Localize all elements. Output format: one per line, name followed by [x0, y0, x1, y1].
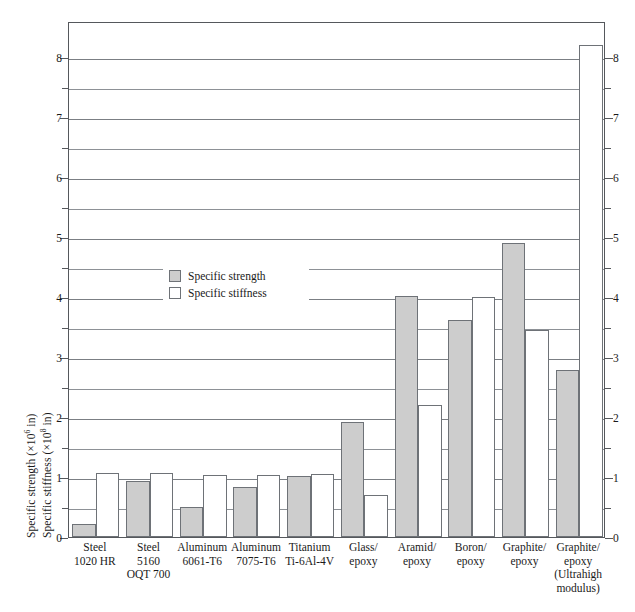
y-tick-right: [605, 178, 613, 179]
x-axis-label-line: epoxy: [498, 555, 552, 569]
bar-group: [338, 23, 392, 537]
x-axis-label: TitaniumTi-6Al-4V: [283, 541, 337, 568]
bar-strength: [341, 422, 365, 537]
bar-group: [69, 23, 123, 537]
x-axis-label-line: 5160: [122, 555, 176, 569]
y-axis-titles: Specific strength (×106 in) Specific sti…: [24, 22, 60, 538]
x-axis-label-line: Steel: [122, 541, 176, 555]
legend-label: Specific stiffness: [188, 287, 267, 299]
y-tick-label-right: 3: [613, 352, 635, 364]
x-axis-label-line: Ti-6Al-4V: [283, 555, 337, 569]
x-axis-label-line: modulus): [551, 582, 605, 596]
x-axis-label: Graphite/epoxy(Ultrahighmodulus): [551, 541, 605, 595]
bar-stiffness: [418, 405, 442, 537]
x-axis-label-line: OQT 700: [122, 568, 176, 582]
legend-swatch-stiffness: [169, 287, 181, 299]
legend-label: Specific strength: [188, 270, 266, 282]
bar-group: [499, 23, 553, 537]
x-axis-label-line: Steel: [68, 541, 122, 555]
x-axis-label: Aramid/epoxy: [390, 541, 444, 568]
x-axis-label-line: Aluminum: [229, 541, 283, 555]
y-tick-label-left: 2: [34, 412, 62, 424]
x-axis-label-line: Graphite/: [551, 541, 605, 555]
bar-stiffness: [150, 473, 174, 537]
bar-strength: [287, 476, 311, 537]
bar-strength: [556, 370, 580, 537]
x-axis-label: Glass/epoxy: [337, 541, 391, 568]
y-tick-label-right: 6: [613, 172, 635, 184]
x-axis-label: Graphite/epoxy: [498, 541, 552, 568]
y-tick-right: [605, 298, 613, 299]
y-tick-right: [605, 118, 613, 119]
bar-stiffness: [203, 475, 227, 537]
chart-legend: Specific strengthSpecific stiffness: [163, 265, 309, 303]
specific-strength-stiffness-bar-chart: Specific strength (×106 in) Specific sti…: [0, 0, 635, 612]
y-tick-label-left: 7: [34, 112, 62, 124]
y-tick-label-right: 4: [613, 292, 635, 304]
legend-swatch-strength: [169, 270, 181, 282]
x-axis-label-line: 7075-T6: [229, 555, 283, 569]
x-axis-label-line: Aluminum: [175, 541, 229, 555]
bar-strength: [126, 481, 150, 537]
bar-strength: [233, 487, 257, 537]
bar-stiffness: [579, 45, 603, 537]
y-tick-right: [605, 418, 613, 419]
bar-group: [552, 23, 606, 537]
y-tick-right: [605, 478, 613, 479]
bar-strength: [395, 296, 419, 537]
bar-strength: [502, 243, 526, 537]
y-tick-right: [605, 538, 613, 539]
bar-group: [445, 23, 499, 537]
bar-stiffness: [472, 297, 496, 537]
x-axis-label-line: epoxy: [390, 555, 444, 569]
bar-strength: [448, 320, 472, 537]
x-axis-label: Aluminum6061-T6: [175, 541, 229, 568]
x-axis-label: Boron/epoxy: [444, 541, 498, 568]
x-axis-label-line: epoxy: [337, 555, 391, 569]
y-tick-label-left: 6: [34, 172, 62, 184]
bar-strength: [180, 507, 204, 537]
y-tick-label-right: 0: [613, 532, 635, 544]
x-axis-label-line: epoxy: [551, 555, 605, 569]
bar-strength: [72, 524, 96, 537]
bar-stiffness: [525, 330, 549, 537]
x-axis-label-line: 6061-T6: [175, 555, 229, 569]
y-tick-label-left: 4: [34, 292, 62, 304]
bar-stiffness: [96, 473, 120, 537]
x-axis-label-line: (Ultrahigh: [551, 568, 605, 582]
x-axis-label-line: Boron/: [444, 541, 498, 555]
x-axis-label-line: Graphite/: [498, 541, 552, 555]
x-axis-label: Aluminum7075-T6: [229, 541, 283, 568]
y-tick-label-right: 5: [613, 232, 635, 244]
y-tick-label-right: 7: [613, 112, 635, 124]
y-tick-label-left: 5: [34, 232, 62, 244]
bar-stiffness: [257, 475, 281, 537]
x-axis-label-line: Aramid/: [390, 541, 444, 555]
y-tick-right: [605, 238, 613, 239]
y-tick-label-left: 3: [34, 352, 62, 364]
legend-item: Specific stiffness: [169, 284, 309, 301]
x-axis-label-line: epoxy: [444, 555, 498, 569]
y-tick-right: [605, 58, 613, 59]
x-axis-label-line: Glass/: [337, 541, 391, 555]
x-axis-label: Steel5160OQT 700: [122, 541, 176, 582]
x-axis-label-line: 1020 HR: [68, 555, 122, 569]
plot-area: [68, 22, 605, 538]
y-tick-label-left: 0: [34, 532, 62, 544]
y-tick-label-left: 1: [34, 472, 62, 484]
y-tick-right: [605, 358, 613, 359]
y-tick-label-right: 2: [613, 412, 635, 424]
bar-stiffness: [364, 495, 388, 537]
y-tick-label-right: 8: [613, 52, 635, 64]
legend-item: Specific strength: [169, 267, 309, 284]
bar-group: [391, 23, 445, 537]
y-tick-label-left: 8: [34, 52, 62, 64]
bar-stiffness: [311, 474, 335, 537]
y-tick-label-right: 1: [613, 472, 635, 484]
x-axis-category-labels: Steel1020 HRSteel5160OQT 700Aluminum6061…: [68, 541, 605, 607]
x-axis-label: Steel1020 HR: [68, 541, 122, 568]
x-axis-label-line: Titanium: [283, 541, 337, 555]
